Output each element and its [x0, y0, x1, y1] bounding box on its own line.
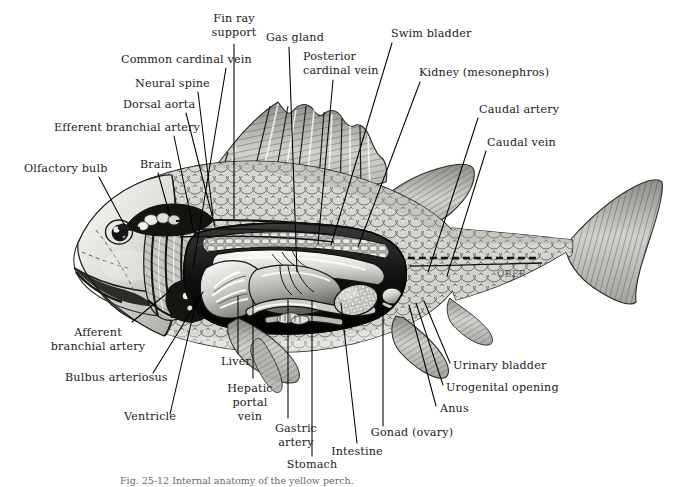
- label-posterior-cardinal-vein: Posteriorcardinal vein: [303, 50, 379, 77]
- label-line: Stomach: [287, 458, 338, 471]
- label-liver: Liver: [221, 355, 252, 368]
- label-neural-spine: Neural spine: [135, 77, 210, 90]
- label-line: support: [212, 26, 257, 39]
- label-line: Hepatic: [227, 382, 273, 395]
- label-efferent-branchial-artery: Efferent branchial artery: [54, 121, 201, 134]
- label-gastric-artery: Gastricartery: [275, 422, 317, 449]
- label-brain: Brain: [140, 158, 172, 171]
- anatomy-diagram: OBER Fin raysupportGas glandSwim bladder…: [0, 0, 677, 487]
- label-olfactory-bulb: Olfactory bulb: [24, 162, 108, 175]
- label-line: Afferent: [73, 326, 122, 339]
- label-line: Ventricle: [123, 410, 176, 423]
- label-line: Caudal vein: [487, 136, 556, 149]
- label-line: Brain: [140, 158, 172, 171]
- label-gonad-ovary: Gonad (ovary): [371, 426, 453, 439]
- fish-illustration: OBER: [74, 102, 663, 393]
- label-line: Caudal artery: [479, 103, 560, 116]
- fish-anatomy-figure: OBER Fin raysupportGas glandSwim bladder…: [0, 0, 677, 487]
- label-gas-gland: Gas gland: [266, 31, 324, 44]
- label-line: vein: [237, 410, 262, 423]
- label-line: Gastric: [275, 422, 317, 435]
- label-line: portal: [233, 396, 268, 409]
- label-urinary-bladder: Urinary bladder: [453, 359, 547, 372]
- label-hepatic-portal-vein: Hepaticportalvein: [227, 382, 273, 423]
- label-fin-ray-support: Fin raysupport: [212, 12, 257, 39]
- label-line: cardinal vein: [303, 64, 379, 77]
- label-line: Gas gland: [266, 31, 324, 44]
- label-line: Bulbus arteriosus: [65, 371, 168, 384]
- label-stomach: Stomach: [287, 458, 338, 471]
- label-line: Intestine: [331, 445, 383, 458]
- label-line: Olfactory bulb: [24, 162, 108, 175]
- label-line: artery: [278, 436, 314, 449]
- figure-caption: Fig. 25-12 Internal anatomy of the yello…: [120, 475, 354, 486]
- anal-fin-posterior-lobe: [447, 298, 492, 345]
- label-bulbus-arteriosus: Bulbus arteriosus: [65, 371, 168, 384]
- label-line: Kidney (mesonephros): [419, 66, 549, 79]
- label-ventricle: Ventricle: [123, 410, 176, 423]
- label-intestine: Intestine: [331, 445, 383, 458]
- label-line: Gonad (ovary): [371, 426, 453, 439]
- label-caudal-vein: Caudal vein: [487, 136, 556, 149]
- label-line: Urogenital opening: [446, 381, 559, 394]
- caudal-fin: [566, 180, 662, 304]
- label-line: Urinary bladder: [453, 359, 547, 372]
- label-line: Neural spine: [135, 77, 210, 90]
- label-caudal-artery: Caudal artery: [479, 103, 560, 116]
- internal-organs: [196, 232, 406, 325]
- label-kidney-mesonephros: Kidney (mesonephros): [419, 66, 549, 79]
- label-dorsal-aorta: Dorsal aorta: [123, 98, 195, 111]
- label-line: Fin ray: [213, 12, 255, 25]
- label-line: Anus: [439, 402, 469, 415]
- artist-signature: OBER: [497, 269, 526, 279]
- label-urogenital-opening: Urogenital opening: [446, 381, 559, 394]
- label-anus: Anus: [439, 402, 469, 415]
- label-line: Swim bladder: [391, 27, 472, 40]
- label-swim-bladder: Swim bladder: [391, 27, 472, 40]
- label-afferent-branchial-artery: Afferentbranchial artery: [51, 326, 146, 353]
- label-line: Efferent branchial artery: [54, 121, 201, 134]
- label-line: Dorsal aorta: [123, 98, 195, 111]
- label-common-cardinal-vein: Common cardinal vein: [121, 53, 252, 66]
- label-line: Posterior: [303, 50, 357, 63]
- label-line: Common cardinal vein: [121, 53, 252, 66]
- olfactory-bulb: [118, 223, 127, 230]
- label-line: branchial artery: [51, 340, 146, 353]
- label-line: Liver: [221, 355, 252, 368]
